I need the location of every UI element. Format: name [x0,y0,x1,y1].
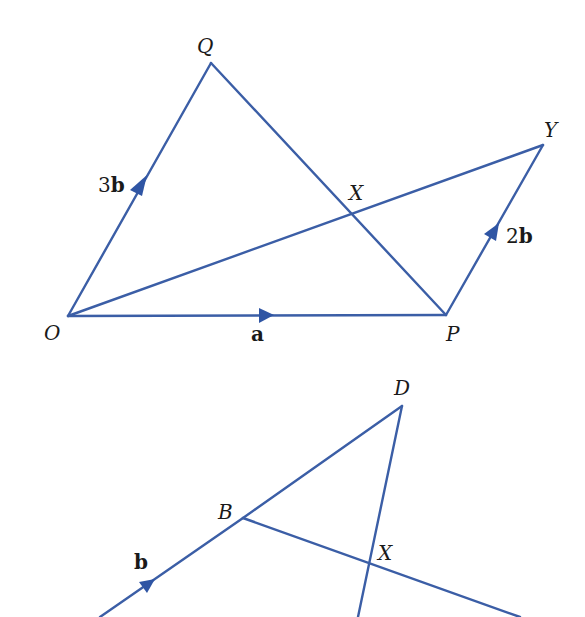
vector-label-PY: 2b [506,226,533,246]
point-label-X: X [349,183,363,203]
vector-symbol: b [519,224,533,248]
segment-OY [68,145,543,316]
segment-BX-extended [243,518,520,617]
segment-OP [68,315,446,316]
arrowhead-icon [484,223,499,241]
arrowhead-icon [130,175,147,196]
vector-symbol: b [111,173,125,197]
vector-coefficient: 3 [98,173,111,197]
arrowhead-icon [259,308,274,323]
figure-1 [68,63,543,323]
point-label-D: D [394,378,410,398]
vector-label-OP: a [251,324,264,344]
point-label-Y: Y [544,120,557,140]
figure-2 [100,406,520,617]
vector-diagram [0,0,585,617]
vector-coefficient: 2 [506,224,519,248]
point-label-O: O [44,323,60,343]
segment-AB [100,518,243,617]
vector-symbol: b [134,550,148,574]
vector-symbol: a [251,322,264,346]
vector-label-AB: b [134,552,148,572]
vector-label-OQ: 3b [98,175,125,195]
point-label-B: B [218,502,233,522]
segment-BD [243,406,402,518]
point-label-P: P [446,324,459,344]
segment-QP [211,63,446,315]
arrowhead-icon [139,579,155,593]
point-label-X2: X [378,543,392,563]
point-label-Q: Q [197,36,213,56]
segment-DX-extended [358,406,402,617]
